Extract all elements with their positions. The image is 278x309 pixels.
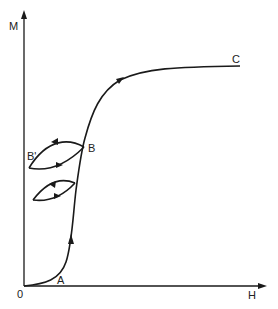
point-b-label: B bbox=[88, 142, 95, 154]
origin-label: 0 bbox=[17, 288, 23, 300]
point-b-prime-label: B' bbox=[27, 150, 36, 162]
y-axis-label: M bbox=[9, 20, 18, 32]
loop-arrow-right-icon bbox=[54, 193, 61, 199]
axes bbox=[21, 10, 267, 289]
loop-arrow-left-icon bbox=[49, 181, 56, 188]
x-axis-arrow-icon bbox=[258, 283, 267, 289]
x-axis-label: H bbox=[248, 289, 256, 301]
minor-loop-lower bbox=[33, 181, 75, 201]
magnetization-diagram: M H 0 A B B' C bbox=[0, 0, 278, 309]
curve-arrow-right-icon bbox=[116, 77, 124, 84]
point-a-label: A bbox=[57, 274, 65, 286]
minor-loop-upper bbox=[29, 138, 84, 169]
curve-arrow-up-icon bbox=[68, 234, 74, 244]
point-c-label: C bbox=[232, 53, 240, 65]
y-axis-arrow-icon bbox=[21, 10, 27, 19]
initial-magnetization-curve bbox=[24, 66, 240, 286]
